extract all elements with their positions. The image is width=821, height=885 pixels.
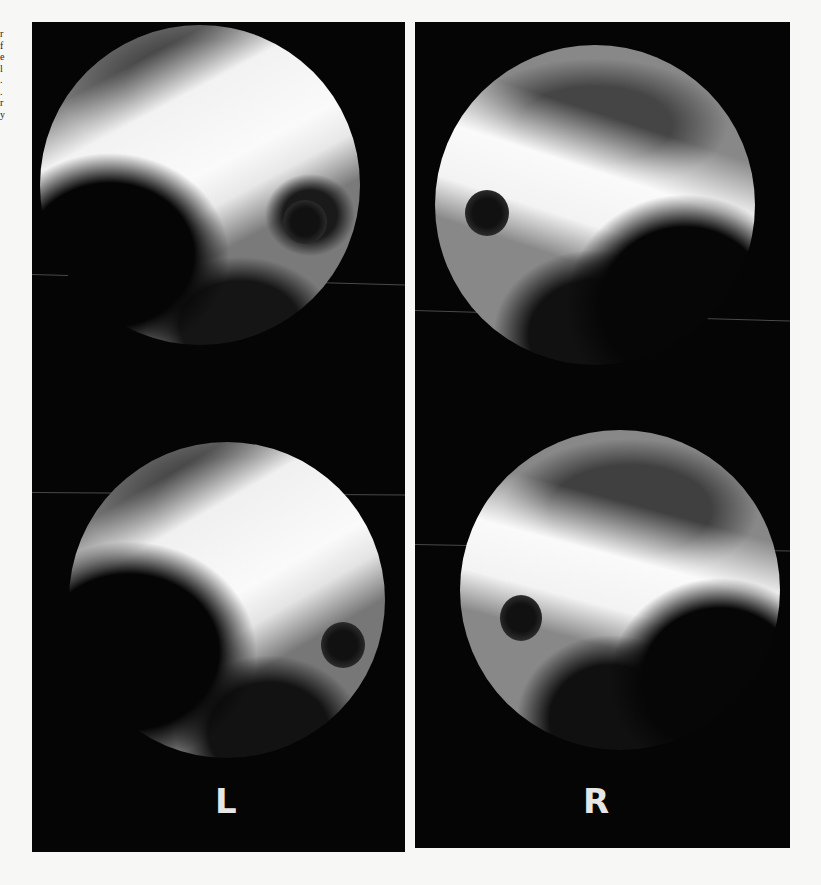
- endoscope-view-right-bottom: [460, 430, 780, 750]
- dark-opening: [500, 595, 542, 641]
- dark-opening: [321, 622, 365, 668]
- dark-opening: [283, 200, 327, 244]
- right-side-label: R: [583, 784, 609, 818]
- cropped-adjacent-text: r f e l . . r y: [0, 28, 8, 120]
- endoscope-view-right-top: [435, 45, 755, 365]
- endoscope-view-left-bottom: [69, 442, 385, 758]
- left-image-panel: L: [32, 22, 405, 852]
- dark-opening: [465, 190, 509, 236]
- right-image-panel: R: [415, 22, 790, 848]
- left-side-label: L: [215, 784, 237, 818]
- endoscope-view-left-top: [40, 25, 360, 345]
